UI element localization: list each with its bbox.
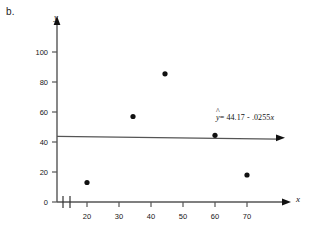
data-point	[212, 133, 217, 138]
figure-panel: b.	[0, 0, 311, 237]
y-tick-marks	[52, 52, 57, 202]
y-tick-label: 80	[22, 78, 48, 87]
data-point	[244, 172, 249, 177]
x-tick-label: 70	[236, 212, 258, 221]
x-axis-label: x	[296, 194, 300, 204]
regression-equation-annotation: ^y= 44.17 - .0255x	[216, 113, 274, 122]
slope-value: .0255	[252, 113, 271, 122]
y-tick-label: 60	[22, 108, 48, 117]
operator-sign: -	[247, 113, 250, 122]
y-tick-label: 0	[22, 198, 48, 207]
x-tick-label: 40	[140, 212, 162, 221]
part-label: b.	[6, 6, 15, 17]
data-point	[130, 114, 135, 119]
intercept-value: 44.17	[226, 113, 245, 122]
hat-accent: ^	[216, 107, 220, 116]
y-axis-label: y	[54, 12, 58, 22]
y-tick-label: 20	[22, 168, 48, 177]
x-symbol: x	[270, 113, 274, 122]
y-hat-symbol: ^y	[216, 113, 220, 122]
x-tick-label: 20	[76, 212, 98, 221]
x-tick-label: 60	[204, 212, 226, 221]
x-axis-arrowhead	[282, 199, 291, 206]
x-tick-label: 30	[108, 212, 130, 221]
data-point	[84, 180, 89, 185]
y-tick-label: 100	[22, 48, 48, 57]
y-tick-label: 40	[22, 138, 48, 147]
x-tick-label: 50	[172, 212, 194, 221]
x-tick-marks	[87, 202, 247, 207]
data-point	[162, 71, 167, 76]
equals-sign: =	[220, 113, 225, 122]
regression-line	[57, 136, 278, 139]
regression-line-arrowhead	[276, 134, 285, 141]
